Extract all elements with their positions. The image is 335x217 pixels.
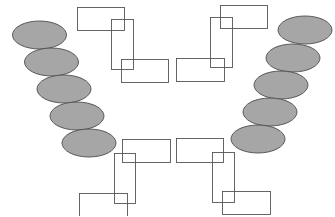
diagram-svg	[0, 0, 335, 216]
top-right-rect-2	[211, 18, 233, 68]
top-right-rect-group	[177, 6, 268, 82]
left-ellipse-5	[62, 129, 116, 157]
left-ellipse-3	[37, 75, 91, 103]
top-left-rect-3	[122, 60, 169, 83]
top-left-rect-2	[112, 20, 134, 70]
left-ellipse-4	[50, 102, 104, 130]
left-ellipse-1	[13, 21, 67, 49]
top-left-rect-1	[78, 8, 125, 31]
top-right-rect-3	[177, 59, 225, 82]
right-ellipse-2	[266, 44, 320, 72]
right-ellipse-1	[278, 16, 332, 44]
right-ellipse-5	[231, 125, 285, 153]
bottom-right-rect-3	[223, 192, 271, 215]
right-ellipse-4	[243, 98, 297, 126]
bottom-left-rect-2	[115, 154, 136, 204]
right-ellipse-chain	[231, 16, 332, 153]
right-ellipse-3	[254, 71, 308, 99]
diagram-canvas	[0, 0, 335, 216]
bottom-left-rect-3	[80, 194, 128, 217]
bottom-left-rect-1	[123, 140, 171, 163]
top-left-rect-group	[78, 8, 169, 83]
left-ellipse-chain	[13, 21, 117, 157]
left-ellipse-2	[25, 48, 79, 76]
top-right-rect-1	[221, 6, 268, 29]
bottom-right-rect-1	[177, 139, 224, 163]
